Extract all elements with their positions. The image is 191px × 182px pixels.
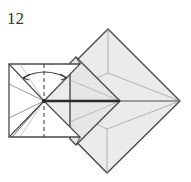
center-point: [42, 99, 46, 103]
origami-diagram: [0, 0, 191, 182]
